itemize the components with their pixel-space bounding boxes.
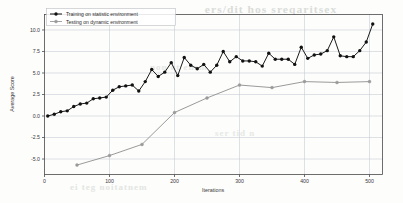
gridlines <box>45 15 383 175</box>
series-markers-training <box>46 22 374 117</box>
svg-text:7.5: 7.5 <box>33 48 40 54</box>
series-line-training <box>48 24 373 116</box>
svg-text:300: 300 <box>235 178 244 184</box>
svg-text:10.0: 10.0 <box>30 27 40 33</box>
legend-marker-training <box>54 12 57 15</box>
line-chart-plot: -5.0-2.50.02.55.07.510.0 010020030040050… <box>0 0 403 203</box>
svg-text:5.0: 5.0 <box>33 70 40 76</box>
y-axis-ticks: -5.0-2.50.02.55.07.510.0 <box>30 27 45 162</box>
legend-label-testing: Testing on dynamic environment <box>66 19 138 25</box>
svg-text:0: 0 <box>43 178 46 184</box>
chart-legend[interactable]: Training on statistic environment Testin… <box>47 9 176 26</box>
x-axis-label: Iterations <box>202 187 224 193</box>
svg-text:2.5: 2.5 <box>33 91 40 97</box>
svg-text:-5.0: -5.0 <box>31 156 40 162</box>
svg-text:100: 100 <box>105 178 114 184</box>
svg-text:0.0: 0.0 <box>33 113 40 119</box>
svg-text:200: 200 <box>170 178 179 184</box>
legend-marker-testing <box>55 20 58 23</box>
chart-figure: ers/dit hos sreqaritsex non ot ensm ser … <box>0 0 403 203</box>
y-axis-label: Average Score <box>9 76 15 112</box>
svg-text:400: 400 <box>300 178 309 184</box>
legend-label-training: Training on statistic environment <box>66 11 138 17</box>
svg-text:-2.5: -2.5 <box>31 134 40 140</box>
series-markers-testing <box>76 80 372 166</box>
svg-text:500: 500 <box>365 178 374 184</box>
x-axis-ticks: 0100200300400500 <box>43 175 374 185</box>
series-line-testing <box>77 82 370 165</box>
